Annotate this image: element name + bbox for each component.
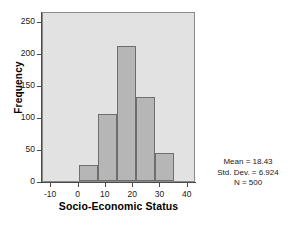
x-tick-label: 30 xyxy=(145,189,173,200)
histogram-bar xyxy=(117,46,136,181)
y-tick: 250 xyxy=(41,22,42,23)
stat-mean: Mean = 18.43 xyxy=(204,157,292,168)
histogram-bar xyxy=(98,114,117,181)
y-tick: 150 xyxy=(41,86,42,87)
x-tick: -10 xyxy=(50,182,51,183)
x-tick: 30 xyxy=(159,182,160,183)
x-tick-label: 10 xyxy=(91,189,119,200)
x-tick-mark xyxy=(132,183,133,187)
x-tick-mark xyxy=(159,183,160,187)
x-axis-line xyxy=(41,182,196,183)
histogram-bar xyxy=(155,153,174,181)
stat-std-dev: Std. Dev. = 6.924 xyxy=(204,168,292,179)
x-tick: 10 xyxy=(105,182,106,183)
x-tick-label: 20 xyxy=(118,189,146,200)
y-tick-label: 50 xyxy=(26,144,35,155)
x-axis-title: Socio-Economic Status xyxy=(42,200,195,212)
y-tick-label: 250 xyxy=(21,16,35,27)
y-tick-mark xyxy=(37,86,41,87)
histogram-bar xyxy=(136,97,155,181)
x-tick-label: 0 xyxy=(64,189,92,200)
stat-n: N = 500 xyxy=(204,178,292,189)
y-tick-label: 0 xyxy=(30,176,35,187)
x-tick: 40 xyxy=(187,182,188,183)
statistics-annotation: Mean = 18.43 Std. Dev. = 6.924 N = 500 xyxy=(204,157,292,189)
histogram-figure: 050100150200250 -10010203040 Frequency S… xyxy=(0,0,294,230)
x-tick-mark xyxy=(50,183,51,187)
plot-area xyxy=(42,12,195,182)
y-tick-mark xyxy=(37,22,41,23)
y-axis-title: Frequency xyxy=(13,43,24,133)
bars-layer xyxy=(43,13,194,181)
y-axis-line xyxy=(41,12,42,183)
y-tick: 50 xyxy=(41,150,42,151)
x-tick: 20 xyxy=(132,182,133,183)
x-tick-mark xyxy=(78,183,79,187)
y-tick-mark xyxy=(37,150,41,151)
y-tick-mark xyxy=(37,54,41,55)
x-tick-label: -10 xyxy=(36,189,64,200)
y-tick-mark xyxy=(37,118,41,119)
y-tick: 100 xyxy=(41,118,42,119)
x-tick-mark xyxy=(105,183,106,187)
x-tick-label: 40 xyxy=(173,189,201,200)
x-tick: 0 xyxy=(78,182,79,183)
histogram-bar xyxy=(79,165,98,181)
y-tick: 200 xyxy=(41,54,42,55)
x-tick-mark xyxy=(187,183,188,187)
